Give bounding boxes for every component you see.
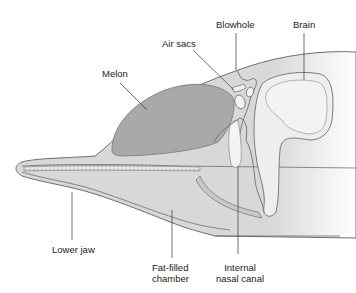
label-fat-filled-chamber: Fat-filled chamber xyxy=(152,262,189,284)
label-lower-jaw: Lower jaw xyxy=(52,244,95,255)
leader-melon xyxy=(120,83,147,110)
label-fat-chamber-line1: Fat-filled xyxy=(152,262,189,273)
label-blowhole: Blowhole xyxy=(216,19,255,30)
label-internal-nasal-canal: Internal nasal canal xyxy=(215,262,265,284)
label-fat-chamber-line2: chamber xyxy=(152,273,189,284)
label-melon: Melon xyxy=(102,68,128,79)
nasal-canal-shape xyxy=(229,120,242,167)
label-nasal-canal-line1: Internal xyxy=(215,262,265,273)
label-air-sacs: Air sacs xyxy=(162,38,196,49)
label-brain: Brain xyxy=(293,19,315,30)
label-nasal-canal-line2: nasal canal xyxy=(215,273,265,284)
teeth-row xyxy=(24,166,200,172)
